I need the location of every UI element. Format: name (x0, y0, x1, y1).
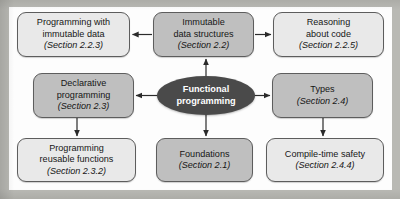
figure-container: Programming with immutable data (Section… (0, 0, 400, 199)
node-label-line2: immutable data (42, 29, 104, 40)
node-reasoning-about-code[interactable]: Reasoning about code (Section 2.2.5) (273, 12, 384, 57)
node-section-ref: (Section 2.2) (178, 40, 230, 51)
node-section-ref: (Section 2.4.4) (295, 160, 354, 171)
center-label-line1: Functional (183, 84, 229, 96)
node-label-line2: programming (57, 90, 111, 101)
node-section-ref: (Section 2.2.3) (44, 40, 103, 51)
node-label-line1: Immutable (182, 17, 224, 28)
node-types[interactable]: Types (Section 2.4) (272, 73, 373, 118)
node-declarative-programming[interactable]: Declarative programming (Section 2.3) (33, 73, 134, 118)
node-immutable-data-structures[interactable]: Immutable data structures (Section 2.2) (153, 12, 254, 57)
node-label-line1: Programming with (37, 17, 110, 28)
center-label-line2: programming (176, 96, 235, 108)
node-label-line2: about code (306, 29, 351, 40)
node-functional-programming-center[interactable]: Functional programming (157, 76, 255, 115)
node-label-line1: Types (310, 84, 334, 95)
node-label-line2: data structures (173, 29, 233, 40)
node-compile-time-safety[interactable]: Compile-time safety (Section 2.4.4) (266, 138, 384, 182)
node-section-ref: (Section 2.1) (179, 160, 231, 171)
node-label-line1: Programming (49, 143, 104, 154)
node-label-line1: Reasoning (307, 17, 350, 28)
diagram-canvas: Programming with immutable data (Section… (9, 7, 392, 190)
node-programming-reusable-functions[interactable]: Programming reusable functions (Section … (17, 138, 136, 182)
node-section-ref: (Section 2.4) (297, 96, 349, 107)
node-section-ref: (Section 2.3.2) (47, 166, 106, 177)
node-section-ref: (Section 2.2.5) (299, 40, 358, 51)
node-programming-with-immutable-data[interactable]: Programming with immutable data (Section… (17, 12, 130, 57)
node-label-line2: reusable functions (40, 154, 114, 165)
node-label-line1: Compile-time safety (285, 149, 365, 160)
node-label-line1: Foundations (179, 149, 229, 160)
node-label-line1: Declarative (61, 78, 107, 89)
node-foundations[interactable]: Foundations (Section 2.1) (156, 138, 253, 182)
node-section-ref: (Section 2.3) (58, 101, 110, 112)
